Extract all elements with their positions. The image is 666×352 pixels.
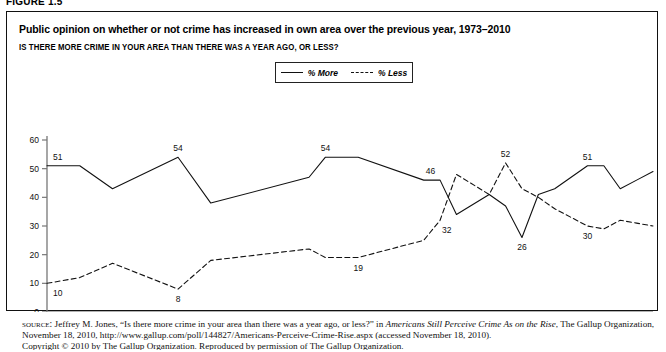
figure-subtitle: IS THERE MORE CRIME IN YOUR AREA THAN TH… (19, 42, 339, 52)
data-point-label: 46 (426, 166, 436, 176)
figure-panel: Public opinion on whether or not crime h… (6, 11, 658, 311)
legend-swatch-solid-icon (281, 72, 303, 74)
chart-series (47, 157, 653, 289)
data-point-label: 19 (353, 263, 363, 273)
chart-point-labels: 515454462651491081932523030 (53, 143, 659, 304)
series-line-less (47, 163, 653, 289)
data-point-label: 52 (501, 149, 511, 159)
y-tick-label: 40 (30, 192, 40, 202)
data-point-label: 8 (176, 294, 181, 304)
y-tick-label: 10 (30, 278, 40, 288)
chart-axes: 0102030405060197319761979198219851988199… (30, 135, 653, 312)
y-tick-label: 20 (30, 250, 40, 260)
y-tick-label: 60 (30, 135, 40, 145)
copyright-note: Copyright © 2010 by The Gallup Organizat… (22, 341, 658, 350)
data-point-label: 54 (321, 143, 331, 153)
source-note: source: Jeffrey M. Jones, “Is there more… (22, 318, 658, 341)
figure-number: FIGURE 1.5 (6, 0, 62, 7)
series-line-more (47, 157, 653, 237)
data-point-label: 10 (53, 288, 63, 298)
data-point-label: 32 (442, 225, 452, 235)
chart-legend: % More % Less (275, 62, 413, 83)
y-tick-label: 30 (30, 221, 40, 231)
legend-item-more: % More (281, 68, 338, 78)
data-point-label: 26 (517, 242, 527, 252)
data-point-label: 30 (583, 231, 593, 241)
y-tick-label: 0 (34, 307, 39, 312)
legend-label-less: % Less (378, 68, 407, 78)
data-point-label: 54 (173, 143, 183, 153)
legend-item-less: % Less (351, 68, 407, 78)
y-tick-label: 50 (30, 164, 40, 174)
data-point-label: 51 (53, 152, 63, 162)
legend-swatch-dashed-icon (351, 72, 373, 74)
legend-label-more: % More (308, 68, 338, 78)
line-chart-plot: 0102030405060197319761979198219851988199… (7, 82, 659, 312)
data-point-label: 51 (583, 152, 593, 162)
page-title: Public opinion on whether or not crime h… (19, 23, 510, 35)
